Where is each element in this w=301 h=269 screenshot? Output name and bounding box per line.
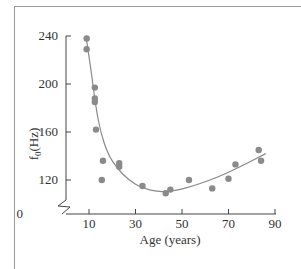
data-point [209,185,215,191]
data-point [83,46,89,52]
x-tick-label: 50 [176,216,189,231]
y-tick-label: 240 [39,28,59,43]
y-tick-label: 120 [39,172,59,187]
data-point [92,99,98,105]
x-tick-label: 90 [269,216,282,231]
y-tick-label: 0 [17,206,24,221]
data-point [116,164,122,170]
fit-curve [87,41,266,192]
x-tick-label: 10 [83,216,96,231]
y-axis-break-icon [58,200,70,214]
data-point [167,186,173,192]
x-tick-label: 70 [222,216,235,231]
x-axis-title: Age (years) [140,232,201,247]
data-point [139,183,145,189]
y-tick-label: 160 [39,124,59,139]
data-point [92,84,98,90]
y-tick-label: 200 [39,76,59,91]
data-point [258,158,264,164]
data-point [186,177,192,183]
y-axis-title: f0(Hz) [26,128,43,161]
data-point [100,158,106,164]
axes [58,36,276,214]
scatter-chart: 01201602002401030507090Age (years)f0(Hz) [0,0,301,269]
fit-curve-line [87,41,266,192]
data-point [225,176,231,182]
data-points [83,35,264,196]
x-tick-label: 30 [129,216,142,231]
data-point [99,177,105,183]
data-point [83,35,89,41]
data-point [232,161,238,167]
data-point [93,126,99,132]
data-point [256,147,262,153]
